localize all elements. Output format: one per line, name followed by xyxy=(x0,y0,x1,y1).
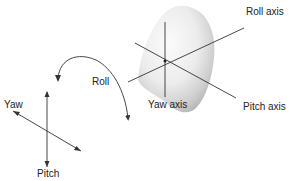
diagram-canvas: Roll axis Yaw axis Pitch axis Roll Yaw P… xyxy=(0,0,289,181)
small-diagonal-arrowhead-right xyxy=(74,146,81,151)
cone-shape xyxy=(138,6,214,113)
axes-origin xyxy=(164,60,167,63)
pitch-axis-label: Pitch axis xyxy=(243,101,286,112)
yaw-label: Yaw xyxy=(4,99,23,110)
roll-arrow xyxy=(58,57,128,118)
roll-axis-label: Roll axis xyxy=(246,6,284,17)
diagram-svg xyxy=(0,0,289,181)
yaw-axis-label: Yaw axis xyxy=(148,99,187,110)
roll-label: Roll xyxy=(92,76,109,87)
pitch-label: Pitch xyxy=(37,168,59,179)
small-vertical-up-arrowhead xyxy=(45,91,50,97)
small-diagonal-arrowhead-left xyxy=(13,111,20,116)
roll-arrow-head-start xyxy=(55,75,61,82)
small-vertical-down-arrowhead xyxy=(45,161,50,167)
